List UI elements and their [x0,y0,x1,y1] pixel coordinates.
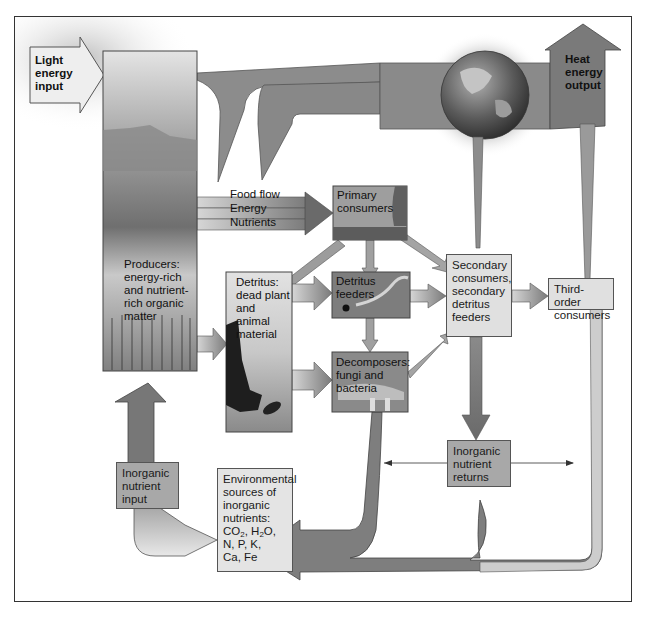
light-energy-input-label: Light energy input [35,54,81,93]
secondary-to-returns-arrow [462,337,490,440]
producers-label: Producers: energy-rich and nutrient-rich… [124,258,192,323]
heat-energy-output-label: Heat energy output [565,53,605,92]
environmental-sources-box: Environmental sources of inorganic nutri… [217,468,293,572]
secondary-consumers-label: Secondary consumers, secondary detritus … [452,259,511,323]
detritus-feeders-label: Detritus feeders [336,275,386,301]
producers-image [103,51,197,371]
heat-drop-arrow [258,82,380,180]
feeders-to-decomposers-arrow [362,318,378,352]
mushroom-stem [385,398,390,411]
nutrient-formula-line3: Ca, Fe [223,551,258,563]
energy-label: Energy [230,202,266,215]
inorganic-input-arrow-up [115,383,166,463]
feeders-to-secondary-arrow [410,284,446,308]
mushroom-stem [370,398,375,411]
primary-consumers-label: Primary consumers [337,189,401,215]
inorganic-returns-box: Inorganic nutrient returns [447,440,511,487]
decomposers-label: Decomposers: fungi and bacteria [336,356,408,395]
nutrient-return-arrow [256,280,602,580]
nutrient-formula-line1: CO2, H2O, [223,525,276,537]
food-flow-label: Food flow [230,188,280,201]
producers-to-detritus-arrow [197,328,227,360]
inorganic-input-label: Inorganic nutrient input [122,467,169,505]
detritus-label: Detritus: dead plant and animal material [236,276,290,341]
inorganic-input-box: Inorganic nutrient input [116,462,179,509]
third-order-consumers-label: Third-order consumers [554,283,610,321]
third-order-consumers-box: Third-order consumers [548,278,614,310]
secondary-heat-flow [473,137,483,248]
beetle-icon [343,305,350,312]
earth-globe-icon [441,51,529,139]
secondary-consumers-box: Secondary consumers, secondary detritus … [446,254,512,337]
environment-to-input-arrow [134,508,217,556]
inorganic-returns-label: Inorganic nutrient returns [453,445,500,483]
third-order-heat-flow [580,124,595,280]
nutrient-formula-line2: N, P, K, [223,538,261,550]
nutrients-label: Nutrients [230,216,276,229]
detritus-to-decomposers-arrow [292,362,332,398]
grass [333,227,407,240]
secondary-to-third-arrow [512,283,548,309]
environmental-sources-label: Environmental sources of inorganic nutri… [223,473,297,524]
decomposers-to-secondary-arrow [408,334,448,378]
